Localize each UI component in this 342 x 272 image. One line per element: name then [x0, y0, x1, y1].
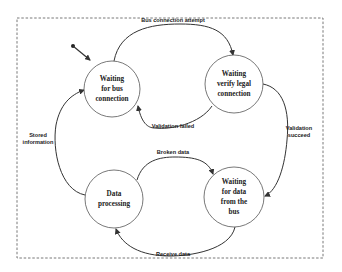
transition-stored-information: Stored information: [23, 90, 85, 195]
state-waiting-verify-legal-connection: Waiting verify legal connection: [205, 55, 263, 113]
edge-label-stored-information-line1: Stored: [29, 132, 47, 138]
edge-label-broken-data: Broken data: [157, 149, 190, 155]
svg-text:Waiting: Waiting: [100, 75, 125, 83]
state-waiting-for-bus-connection: Waiting for bus connection: [84, 61, 140, 117]
transition-receive-data: Receive data: [116, 227, 235, 257]
svg-text:for data: for data: [222, 188, 247, 196]
edge-label-validation-failed: Validation failed: [152, 123, 195, 129]
edge-label-stored-information-line2: information: [23, 139, 54, 145]
edge-label-bus-connection-attempt: Bus connection attempt: [141, 17, 205, 23]
svg-text:Waiting: Waiting: [222, 70, 247, 78]
svg-text:bus: bus: [229, 208, 240, 216]
transition-broken-data: Broken data: [137, 149, 213, 180]
svg-text:connection: connection: [95, 95, 128, 103]
svg-text:Waiting: Waiting: [222, 178, 247, 186]
svg-text:connection: connection: [217, 90, 250, 98]
svg-text:Data: Data: [107, 190, 122, 198]
svg-text:verify legal: verify legal: [217, 80, 251, 88]
svg-text:for bus: for bus: [101, 85, 123, 93]
state-data-processing: Data processing: [85, 170, 143, 228]
transition-validation-succeed: Validation succeed: [263, 84, 313, 196]
edge-label-receive-data: Receive data: [156, 251, 191, 257]
state-diagram: Bus connection attempt Validation failed…: [0, 0, 342, 272]
svg-text:from the: from the: [221, 198, 247, 206]
transition-bus-connection-attempt: Bus connection attempt: [114, 17, 233, 61]
diagram-frame: [17, 18, 323, 258]
edge-label-validation-succeed-line1: Validation: [286, 125, 313, 131]
edge-label-validation-succeed-line2: succeed: [288, 132, 311, 138]
state-waiting-for-data-from-the-bus: Waiting for data from the bus: [204, 167, 264, 227]
transition-validation-failed: Validation failed: [138, 106, 212, 129]
initial-state-marker: [71, 44, 90, 60]
svg-text:processing: processing: [98, 200, 131, 208]
